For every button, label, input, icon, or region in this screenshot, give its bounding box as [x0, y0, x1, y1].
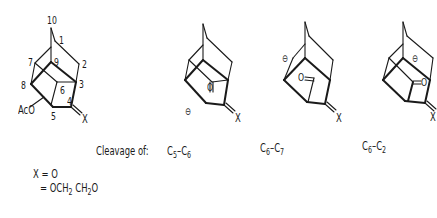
atom-label-1: 1 — [59, 35, 64, 46]
atom-label-6: 6 — [60, 85, 65, 96]
atom-label-7: 7 — [28, 57, 33, 68]
caption-c6-c7: C6–C7 — [260, 142, 284, 154]
carbonyl-o-label-4: O — [421, 77, 427, 88]
product-c6-c7-structure — [284, 22, 336, 112]
atom-label-2: 2 — [82, 59, 87, 70]
atom-label-9: 9 — [54, 57, 59, 68]
atom-label-4: 4 — [67, 96, 72, 107]
atom-label-10: 10 — [47, 15, 57, 26]
product-c5-c6-structure — [185, 24, 235, 113]
x-label-2: X — [235, 113, 241, 124]
x-label-parent: X — [82, 114, 88, 125]
acetoxy-label: AcO — [18, 105, 35, 116]
legend-x-equals-o: X = O — [33, 168, 58, 180]
caption-prefix: Cleavage of: — [96, 145, 149, 157]
caption-c6-c2: C6–C2 — [362, 140, 386, 152]
product-c6-c2-structure — [383, 22, 436, 111]
parent-structure — [30, 28, 82, 115]
anion-charge-2: ⊖ — [185, 106, 191, 117]
atom-label-5: 5 — [51, 111, 56, 122]
legend-x-equals-ketal: = OCH2 CH2O — [40, 182, 98, 194]
x-label-3: X — [336, 113, 342, 124]
anion-charge-3: ⊖ — [282, 53, 288, 64]
caption-c5-c6: C5–C6 — [167, 145, 191, 157]
x-label-4b: X — [430, 112, 436, 123]
atom-label-8: 8 — [21, 80, 26, 91]
anion-charge-4: ⊖ — [412, 53, 418, 64]
carbonyl-o-label-3: O — [298, 72, 304, 83]
carbonyl-o-label-2: O — [207, 82, 213, 93]
atom-label-3: 3 — [79, 79, 84, 90]
